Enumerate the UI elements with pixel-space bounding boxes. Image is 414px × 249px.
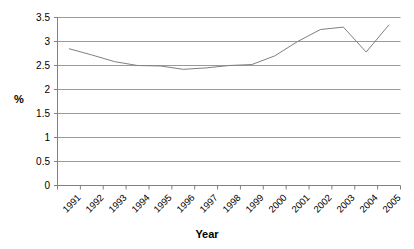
x-axis-ticks [58,186,401,190]
plot-area [0,0,414,249]
gridlines [58,18,401,186]
line-chart: % Year 00.511.522.533.5 1991199219931994… [0,0,414,249]
y-axis-ticks [54,18,58,186]
data-series-line [69,25,389,70]
